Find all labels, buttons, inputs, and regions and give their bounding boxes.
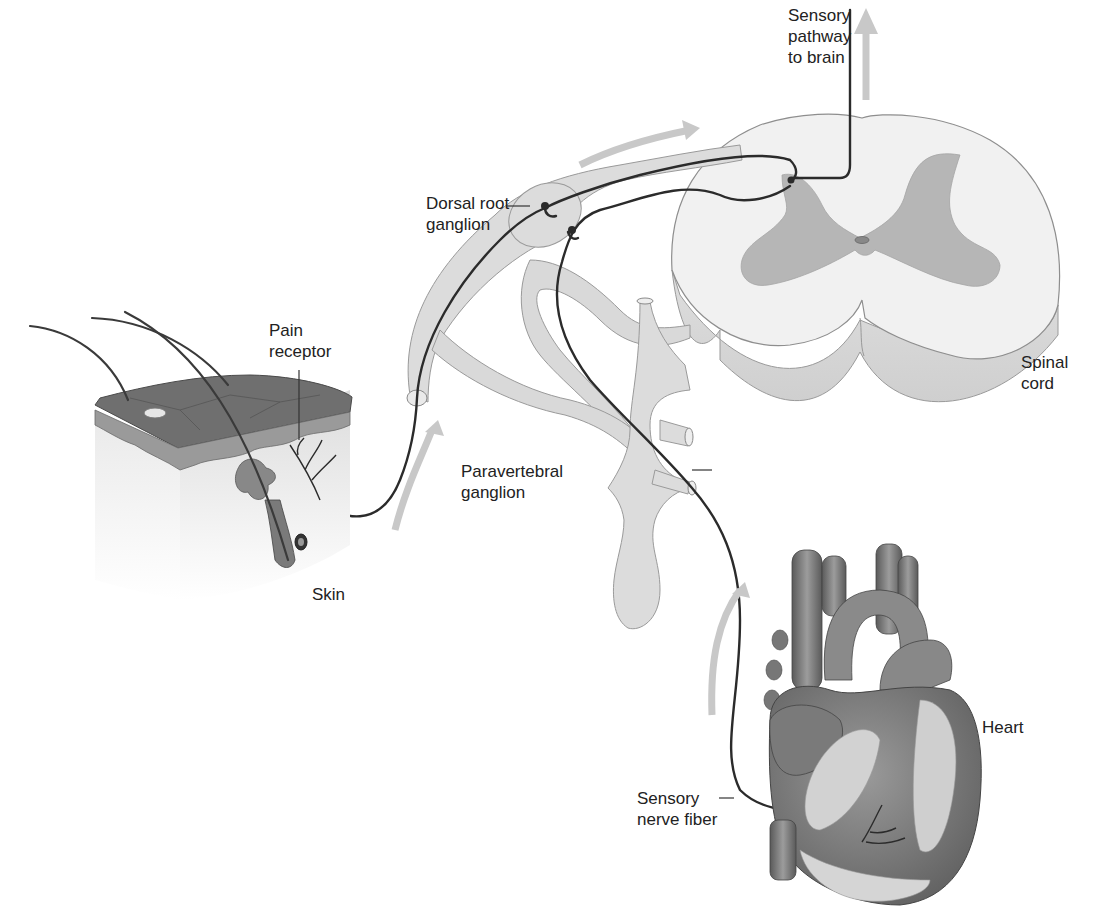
- heart: [764, 544, 981, 905]
- central-canal: [855, 237, 869, 244]
- label-paravertebral-ganglion: Paravertebral ganglion: [461, 461, 563, 503]
- label-pain-receptor: Pain receptor: [269, 320, 331, 362]
- label-dorsal-root-ganglion: Dorsal root ganglion: [426, 193, 509, 235]
- synapse: [788, 177, 795, 184]
- label-skin: Skin: [312, 584, 345, 605]
- label-heart: Heart: [982, 717, 1024, 738]
- paravertebral-ganglion-shape: [608, 298, 696, 629]
- label-sensory-nerve-fiber: Sensory nerve fiber: [637, 788, 717, 830]
- label-spinal-cord: Spinal cord: [1021, 352, 1068, 394]
- label-sensory-pathway: Sensory pathway to brain: [788, 5, 851, 68]
- drg-soma-2: [568, 226, 576, 234]
- skin-block: [95, 375, 352, 600]
- drg-soma-1: [541, 202, 549, 210]
- referred-pain-diagram: Sensory pathway to brain Dorsal root gan…: [0, 0, 1100, 924]
